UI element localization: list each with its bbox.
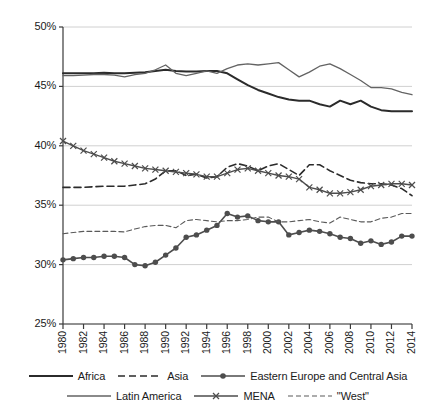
x-tick-label: 1980 [56, 331, 68, 354]
series-marker-circle [399, 233, 404, 238]
series-marker-circle [368, 238, 373, 243]
series-marker-circle [358, 241, 363, 246]
x-tick-label: 2002 [282, 331, 294, 354]
x-tick-label: 2004 [302, 331, 314, 354]
x-tick-label: 2010 [364, 331, 376, 354]
series-marker-circle [132, 262, 137, 267]
line-chart: 50%45%40%35%30%25% 198019821984198619881… [0, 0, 435, 412]
x-tick-label: 2012 [384, 331, 396, 354]
series-marker-circle [225, 211, 230, 216]
series-marker-circle [71, 256, 76, 261]
series-marker-circle [286, 232, 291, 237]
series-marker-circle [389, 239, 394, 244]
x-tick-label: 1982 [77, 331, 89, 354]
x-tick-label: 1994 [200, 331, 212, 354]
legend-label-latin-america: Latin America [116, 390, 181, 402]
legend-item-latin-america[interactable]: Latin America [66, 390, 181, 402]
legend-item-mena[interactable]: MENA [193, 390, 274, 402]
series-marker-circle [307, 227, 312, 232]
series-marker-circle [327, 231, 332, 236]
series-marker-circle [255, 218, 260, 223]
legend-label-west: "West" [337, 390, 369, 402]
series-marker-circle [317, 229, 322, 234]
series-marker-circle [266, 219, 271, 224]
x-tick-label: 1998 [241, 331, 253, 354]
x-tick-label: 1986 [118, 331, 130, 354]
x-tick-label: 1984 [97, 331, 109, 354]
y-tick-label: 40% [14, 139, 56, 151]
x-tick-label: 1996 [220, 331, 232, 354]
legend-label-eeca: Eastern Europe and Central Asia [250, 370, 407, 382]
x-tick-label: 2006 [323, 331, 335, 354]
series-marker-circle [296, 230, 301, 235]
legend-row: Latin AmericaMENA"West" [0, 386, 435, 406]
series-marker-circle [204, 227, 209, 232]
legend-swatch-africa [28, 370, 74, 382]
series-marker-circle [163, 252, 168, 257]
y-tick-label: 50% [14, 20, 56, 32]
x-tick-label: 2014 [405, 331, 417, 354]
series-marker-circle [142, 263, 147, 268]
legend-row: AfricaAsiaEastern Europe and Central Asi… [0, 366, 435, 386]
series-marker-circle [112, 254, 117, 259]
x-tick-label: 2008 [343, 331, 355, 354]
legend-item-west[interactable]: "West" [287, 390, 369, 402]
series-marker-circle [245, 213, 250, 218]
legend-label-africa: Africa [78, 370, 106, 382]
x-tick-label: 2000 [261, 331, 273, 354]
legend-item-asia[interactable]: Asia [117, 370, 188, 382]
x-tick-label: 1992 [179, 331, 191, 354]
legend-swatch-asia [117, 370, 163, 382]
series-marker-circle [409, 233, 414, 238]
legend-swatch-latin-america [66, 390, 112, 402]
series-marker-circle [122, 255, 127, 260]
series-marker-circle [183, 235, 188, 240]
series-marker-circle [194, 232, 199, 237]
legend-swatch-mena [193, 390, 239, 402]
series-marker-circle [379, 242, 384, 247]
series-marker-circle [153, 260, 158, 265]
x-tick-label: 1990 [159, 331, 171, 354]
series-marker-circle [101, 254, 106, 259]
series-marker-circle [91, 255, 96, 260]
series-line-africa [63, 70, 412, 112]
series-marker-circle [60, 257, 65, 262]
legend-label-asia: Asia [167, 370, 188, 382]
series-marker-circle [337, 235, 342, 240]
y-tick-label: 25% [14, 317, 56, 329]
y-tick-label: 45% [14, 79, 56, 91]
series-marker-circle [173, 245, 178, 250]
legend-item-africa[interactable]: Africa [28, 370, 106, 382]
legend-label-mena: MENA [243, 390, 274, 402]
series-line-mena [63, 141, 412, 193]
legend-item-eeca[interactable]: Eastern Europe and Central Asia [200, 370, 407, 382]
series-marker-circle [235, 214, 240, 219]
series-marker-circle [214, 223, 219, 228]
legend-swatch-west [287, 390, 333, 402]
y-tick-label: 30% [14, 258, 56, 270]
legend-swatch-eeca [200, 370, 246, 382]
chart-legend: AfricaAsiaEastern Europe and Central Asi… [0, 366, 435, 410]
x-tick-label: 1988 [138, 331, 150, 354]
series-marker-circle [81, 255, 86, 260]
series-marker-circle [348, 236, 353, 241]
y-tick-label: 35% [14, 198, 56, 210]
